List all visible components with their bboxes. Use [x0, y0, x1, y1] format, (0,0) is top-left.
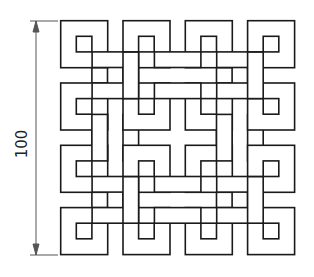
knot-inner-square	[139, 99, 155, 115]
horizontal-band	[154, 177, 201, 193]
knot-pattern	[61, 21, 295, 255]
knot-inner-square	[263, 99, 279, 115]
knot-inner-square	[263, 36, 279, 52]
knot-inner-square	[139, 36, 155, 52]
horizontal-band	[154, 83, 201, 99]
knot-drawing	[0, 0, 314, 277]
vertical-band-over	[248, 177, 264, 224]
vertical-band-over	[248, 52, 264, 99]
knot-inner-square	[76, 99, 92, 115]
knot-inner-square	[139, 223, 155, 239]
knot-inner-square	[76, 223, 92, 239]
horizontal-band	[154, 52, 201, 68]
vertical-band-over	[92, 114, 108, 160]
vertical-band-over	[217, 114, 233, 160]
knot-inner-square	[263, 161, 279, 177]
knot-inner-square	[139, 161, 155, 177]
knot-inner-square	[201, 99, 217, 115]
knot-inner-square	[76, 161, 92, 177]
horizontal-band	[154, 208, 201, 224]
knot-inner-square	[263, 223, 279, 239]
knot-inner-square	[201, 223, 217, 239]
knot-inner-square	[201, 161, 217, 177]
dimension-line	[30, 21, 58, 255]
vertical-band-over	[123, 177, 139, 224]
knot-inner-square	[76, 36, 92, 52]
knot-inner-square	[201, 36, 217, 52]
vertical-band-over	[123, 52, 139, 99]
